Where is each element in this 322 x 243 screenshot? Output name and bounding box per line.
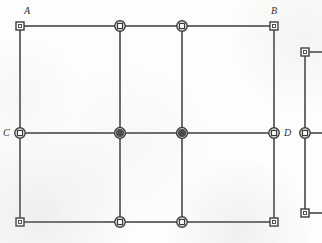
node-top-2 — [115, 21, 125, 31]
node-label-b: B — [271, 6, 277, 16]
node-bottom-right — [270, 218, 278, 226]
columns-group — [20, 26, 274, 222]
node-bottom-left — [16, 218, 24, 226]
node-label-a: A — [24, 6, 30, 16]
node-A — [16, 22, 24, 30]
figure-canvas: ABCD — [0, 0, 322, 243]
node-mid-2 — [115, 128, 126, 139]
side-node-top — [301, 48, 309, 56]
node-label-c: C — [3, 128, 10, 138]
node-D — [269, 128, 279, 138]
frame-diagram — [0, 0, 322, 243]
node-mid-3 — [177, 128, 188, 139]
node-bottom-2 — [115, 217, 125, 227]
side-node-middle — [300, 128, 310, 138]
node-top-3 — [177, 21, 187, 31]
node-C — [15, 128, 25, 138]
side-node-bottom — [301, 209, 309, 217]
nodes-group — [15, 21, 279, 227]
node-label-d: D — [284, 128, 291, 138]
node-B — [270, 22, 278, 30]
beams-group — [20, 26, 274, 222]
node-bottom-3 — [177, 217, 187, 227]
